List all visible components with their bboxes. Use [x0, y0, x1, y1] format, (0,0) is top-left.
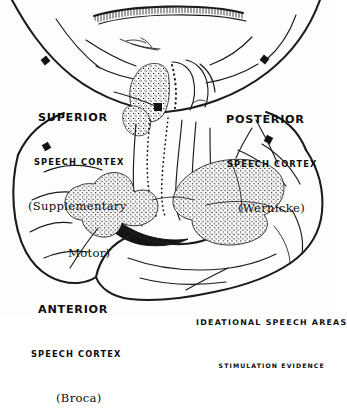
label-superior-speech-cortex: SUPERIOR SPEECH CORTEX (Supplementary Mo…	[38, 78, 127, 293]
label-superior-line3: (Supplementary	[28, 200, 127, 212]
label-superior-line1: SUPERIOR	[38, 112, 127, 124]
label-anterior-line3: (Broca)	[56, 392, 122, 404]
label-superior-line2: SPEECH CORTEX	[34, 158, 127, 167]
label-anterior-speech-cortex: ANTERIOR SPEECH CORTEX (Broca)	[38, 270, 122, 408]
label-posterior-line2: SPEECH CORTEX	[227, 160, 318, 169]
label-posterior-speech-cortex: POSTERIOR SPEECH CORTEX (Wernicke)	[226, 80, 318, 249]
caption-line2: STIMULATION EVIDENCE	[196, 363, 347, 370]
caption-line1: IDEATIONAL SPEECH AREAS	[196, 319, 347, 327]
marker-superior	[154, 103, 162, 111]
marker-top-right	[260, 55, 270, 65]
label-superior-line4: Motor)	[68, 247, 127, 259]
label-anterior-line1: ANTERIOR	[38, 304, 122, 316]
label-posterior-line3: (Wernicke)	[238, 202, 318, 214]
cortex-cut-hatching	[94, 0, 246, 30]
label-posterior-line1: POSTERIOR	[226, 114, 318, 126]
label-anterior-line2: SPEECH CORTEX	[31, 350, 122, 359]
central-sulcus-dotted-b	[162, 118, 168, 216]
superior-speech-area-stipple	[123, 63, 170, 135]
marker-top-left	[41, 56, 51, 66]
midline-dotted-top	[172, 65, 176, 108]
figure-caption: IDEATIONAL SPEECH AREAS STIMULATION EVID…	[196, 285, 347, 404]
